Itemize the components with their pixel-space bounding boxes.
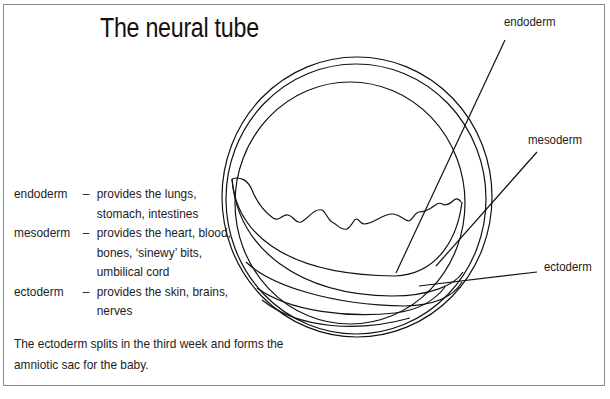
- wavy-edge: [232, 178, 461, 229]
- legend-term: endoderm: [14, 184, 83, 204]
- germ-layers: [232, 179, 463, 326]
- outer-rings: [222, 57, 492, 337]
- label-endoderm: endoderm: [504, 14, 556, 29]
- legend-dash: –: [83, 282, 97, 302]
- legend-desc: provides the lungs,: [97, 184, 197, 204]
- legend-row-mesoderm: mesoderm – provides the heart, blood,: [14, 223, 231, 243]
- label-mesoderm: mesoderm: [528, 132, 582, 147]
- legend-desc: stomach, intestines: [14, 204, 231, 224]
- legend-desc: nerves: [14, 301, 231, 321]
- legend-dash: –: [83, 223, 97, 243]
- footnote-line: amniotic sac for the baby.: [14, 354, 283, 375]
- legend-desc: umbilical cord: [14, 262, 231, 282]
- footnote: The ectoderm splits in the third week an…: [14, 333, 283, 375]
- footnote-line: The ectoderm splits in the third week an…: [14, 333, 283, 354]
- endoderm-leader: [396, 40, 505, 273]
- germ-layer-legend: endoderm – provides the lungs, stomach, …: [14, 184, 231, 321]
- legend-term: ectoderm: [14, 282, 83, 302]
- label-ectoderm: ectoderm: [544, 259, 592, 274]
- ectoderm-leader: [419, 272, 537, 286]
- legend-desc: provides the heart, blood,: [97, 223, 231, 243]
- legend-desc: bones, ‘sinewy’ bits,: [14, 243, 231, 263]
- legend-row-ectoderm: ectoderm – provides the skin, brains,: [14, 282, 231, 302]
- legend-term: mesoderm: [14, 223, 83, 243]
- mesoderm-leader: [436, 152, 537, 266]
- legend-row-endoderm: endoderm – provides the lungs,: [14, 184, 231, 204]
- legend-desc: provides the skin, brains,: [97, 282, 228, 302]
- legend-dash: –: [83, 184, 97, 204]
